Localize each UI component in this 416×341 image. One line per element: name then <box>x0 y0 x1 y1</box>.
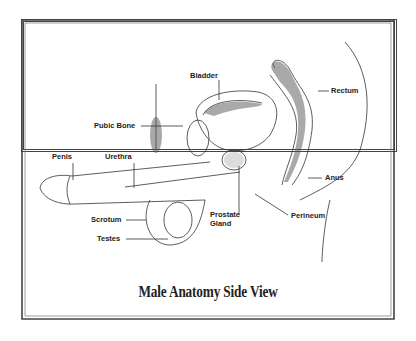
label-prostate-line2: Gland <box>210 219 240 228</box>
label-pubic-bone: Pubic Bone <box>94 121 135 130</box>
label-prostate-line1: Prostate <box>210 210 240 219</box>
label-bladder: Bladder <box>190 71 218 80</box>
label-testes: Testes <box>97 234 120 243</box>
label-anus: Anus <box>325 173 344 182</box>
label-penis: Penis <box>52 152 72 161</box>
label-rectum: Rectum <box>331 86 359 95</box>
diagram-title: Male Anatomy Side View <box>46 282 370 302</box>
label-perineum: Perineum <box>291 211 325 220</box>
label-prostate-gland: Prostate Gland <box>210 210 240 228</box>
label-scrotum: Scrotum <box>91 215 121 224</box>
label-urethra: Urethra <box>105 152 132 161</box>
